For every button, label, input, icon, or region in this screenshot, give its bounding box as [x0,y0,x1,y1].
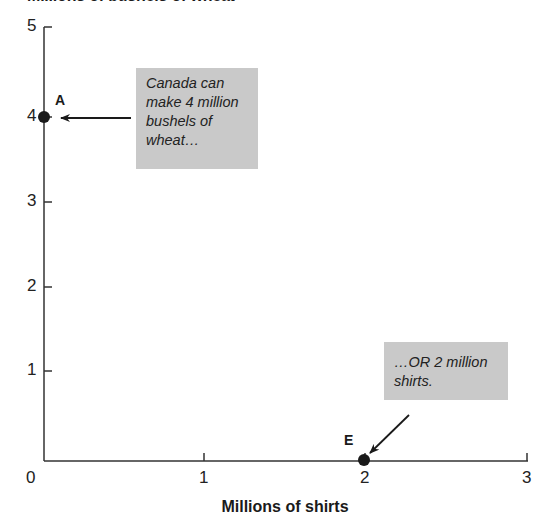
point-a-label: A [55,92,65,108]
y-tick-label-1: 1 [27,360,36,380]
x-tick-label-1: 1 [199,468,208,488]
callout-e-line-1: …OR 2 million [394,353,508,372]
y-tick-label-3: 3 [27,191,36,211]
y-tick-label-2: 2 [27,276,36,296]
point-e-label: E [344,432,353,448]
chart-plot-area [0,0,554,532]
x-tick-label-2: 2 [360,468,369,488]
x-axis-title: Millions of shirts [0,498,554,516]
callout-e: …OR 2 million shirts. [384,342,508,400]
callout-a: Canada can make 4 million bushels of whe… [136,68,258,169]
callout-a-line-3: bushels of [146,112,258,131]
x-tick-label-0: 0 [26,468,35,488]
callout-a-line-2: make 4 million [146,93,258,112]
x-tick-label-3: 3 [522,468,531,488]
callout-e-line-2: shirts. [394,372,508,391]
arrow-to-e [370,415,409,453]
callout-a-line-1: Canada can [146,74,258,93]
callout-a-line-4: wheat… [146,131,258,150]
point-e-marker [358,454,370,466]
point-a-marker [38,111,50,123]
y-tick-label-5: 5 [27,16,36,36]
y-tick-label-4: 4 [27,106,36,126]
